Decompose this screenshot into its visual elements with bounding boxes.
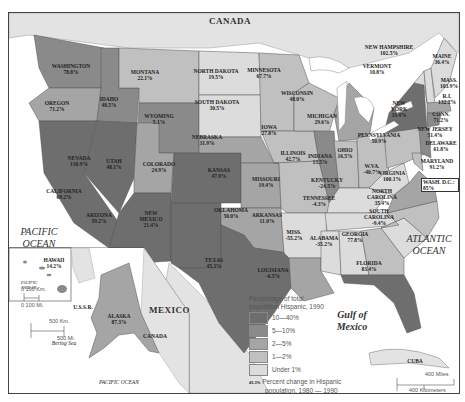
state-label-connecticut: CONN.71.2% bbox=[432, 111, 450, 123]
state-label-utah: UTAH48.1% bbox=[106, 158, 121, 170]
state-label-north-carolina: NORTHCAROLINA35.4% bbox=[367, 188, 397, 206]
inset-pacific-label: PACIFIC OCEAN bbox=[99, 379, 139, 385]
state-label-maryland: MARYLAND91.2% bbox=[421, 158, 454, 170]
state-label-rhode-island: R.I.132.2% bbox=[438, 93, 456, 105]
state-label-new-jersey: NEW JERSEY51.4% bbox=[417, 126, 453, 138]
state-label-minnesota: MINNESOTA67.7% bbox=[247, 67, 281, 79]
state-label-alaska: ALASKA87.3% bbox=[108, 313, 131, 325]
pacific-ocean-label: PACIFICOCEAN bbox=[14, 226, 64, 250]
state-label-iowa: IOWA27.8% bbox=[261, 124, 276, 136]
state-label-missouri: MISSOURI19.4% bbox=[252, 176, 280, 188]
legend-item: 10—40% bbox=[249, 311, 359, 324]
state-label-maine: MAINE36.4% bbox=[433, 53, 452, 65]
hawaii-big-island bbox=[57, 285, 67, 293]
legend-item: 5—10% bbox=[249, 324, 359, 337]
state-label-north-dakota: NORTH DAKOTA19.5% bbox=[193, 68, 238, 80]
state-label-kentucky: KENTUCKY-24.5% bbox=[311, 177, 343, 189]
state-label-kansas: KANSAS47.9% bbox=[208, 167, 230, 179]
state-label-massachusetts: MASS.103.9% bbox=[440, 77, 458, 89]
legend-title: Percentage of total population Hispanic,… bbox=[249, 295, 359, 311]
state-label-montana: MONTANA22.1% bbox=[131, 69, 160, 81]
state-label-arizona: ARIZONA59.2% bbox=[86, 212, 112, 224]
hawaii-scale-mi: 0 100 Mi. bbox=[21, 302, 44, 308]
main-scale-km: 400 Kilometers bbox=[409, 387, 446, 393]
state-label-south-dakota: SOUTH DAKOTA30.5% bbox=[195, 99, 239, 111]
state-label-pennsylvania: PENNSYLVANIA50.9% bbox=[358, 132, 401, 144]
cuba-label: CUBA bbox=[407, 358, 423, 364]
state-label-vermont: VERMONT10.8% bbox=[363, 63, 392, 75]
alaska-scale-km: 500 Km. bbox=[49, 318, 69, 324]
state-label-virginia: VIRGINIA100.1% bbox=[379, 170, 406, 182]
state-label-washington: WASHINGTON78.8% bbox=[52, 63, 90, 75]
inset-canada-label: CANADA bbox=[143, 333, 167, 339]
state-label-new-mexico: NEWMEXICO21.4% bbox=[139, 210, 162, 228]
state-label-colorado: COLORADO24.9% bbox=[143, 161, 175, 173]
legend-note: 45.3% Percent change in Hispanic populat… bbox=[249, 378, 359, 394]
legend-item: 2—5% bbox=[249, 337, 359, 350]
state-label-idaho: IDAHO48.5% bbox=[100, 96, 119, 108]
state-label-hawaii: HAWAII14.2% bbox=[44, 257, 65, 269]
state-label-wyoming: WYOMING5.1% bbox=[144, 113, 173, 125]
state-label-ohio: OHIO16.5% bbox=[337, 147, 352, 159]
atlantic-ocean-label: ATLANTICOCEAN bbox=[399, 233, 459, 257]
map-frame: CANADA MEXICO PACIFICOCEAN ATLANTICOCEAN… bbox=[8, 12, 460, 394]
main-scale-miles: 400 Miles bbox=[425, 371, 449, 377]
ussr-label: U.S.S.R. bbox=[73, 304, 93, 310]
state-label-california: CALIFORNIA69.2% bbox=[46, 188, 81, 200]
state-label-south-carolina: SOUTHCAROLINA-9.4% bbox=[364, 208, 394, 226]
state-label-georgia: GEORGIA77.8% bbox=[342, 231, 369, 243]
legend-item: Under 1% bbox=[249, 363, 359, 376]
state-label-florida: FLORIDA83.4% bbox=[356, 260, 381, 272]
state-label-nevada: NEVADA130.9% bbox=[68, 155, 91, 167]
state-label-illinois: ILLINOIS42.7% bbox=[280, 150, 305, 162]
state-label-new-york: NEWYORK33.4% bbox=[391, 100, 408, 118]
state-label-texas: TEXAS45.3% bbox=[205, 257, 223, 269]
state-label-wisconsin: WISCONSIN48.0% bbox=[281, 90, 313, 102]
legend: Percentage of total population Hispanic,… bbox=[249, 295, 359, 394]
state-label-delaware: DELAWARE61.8% bbox=[425, 140, 456, 152]
state-label-new-hampshire: NEW HAMPSHIRE102.5% bbox=[365, 44, 413, 56]
state-label-mississippi: MISS.-55.2% bbox=[286, 229, 303, 241]
state-label-oregon: OREGON71.2% bbox=[45, 100, 69, 112]
wash-dc-label: WASH. D.C.: 85% bbox=[421, 178, 459, 192]
legend-item: 1—2% bbox=[249, 350, 359, 363]
state-label-oklahoma: OKLAHOMA50.0% bbox=[214, 207, 248, 219]
state-label-arkansas: ARKANSAS11.0% bbox=[252, 212, 282, 224]
alaska-scale-mi: 500 Mi. bbox=[57, 335, 75, 341]
canada-label: CANADA bbox=[209, 16, 251, 26]
state-label-michigan: MICHIGAN29.6% bbox=[307, 113, 337, 125]
state-label-alabama: ALABAMA-35.2% bbox=[310, 235, 338, 247]
state-label-tennessee: TENNESSEE-4.3% bbox=[303, 195, 335, 207]
state-label-louisiana: LOUISIANA-6.5% bbox=[257, 267, 288, 279]
state-colorado bbox=[171, 153, 241, 203]
mexico-label: MEXICO bbox=[149, 305, 190, 315]
state-label-west-virginia: W.VA.-40.7% bbox=[364, 163, 381, 175]
hawaii-scale-km: 0 100 Km. bbox=[21, 286, 46, 292]
state-label-indiana: INDIANA13.5% bbox=[308, 153, 332, 165]
state-label-nebraska: NEBRASKA31.9% bbox=[192, 134, 223, 146]
